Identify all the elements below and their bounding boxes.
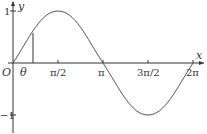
origin-label: O	[2, 66, 11, 79]
x-axis-label: x	[196, 49, 203, 62]
y-one-label: 1	[4, 6, 10, 17]
pi-label: π	[98, 67, 105, 78]
y-axis-arrow	[11, 1, 15, 6]
pi-half-label: π/2	[50, 67, 66, 78]
y-axis-label: y	[17, 0, 25, 13]
two-pi-label: 2π	[186, 67, 199, 78]
three-pi-half-label: 3π/2	[137, 67, 160, 78]
sine-graph: y x O θ π/2 π 3π/2 2π 1 −1	[0, 0, 207, 134]
theta-label: θ	[20, 66, 27, 79]
y-minus-one-label: −1	[0, 110, 15, 121]
